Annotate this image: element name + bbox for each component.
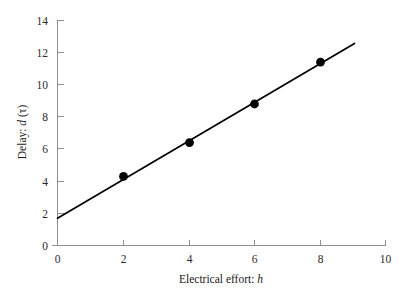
data-point: [316, 58, 325, 67]
y-tick-label: 8: [42, 111, 48, 123]
y-tick-label: 4: [42, 176, 48, 188]
y-tick-label: 0: [42, 240, 48, 252]
y-axis-tick-labels: 14 12 10 8 6 4 2 0: [37, 15, 49, 252]
x-tick-label: 2: [121, 253, 127, 265]
y-axis-title-text: Delay:: [16, 129, 29, 160]
data-point: [119, 172, 128, 181]
x-tick-label: 0: [55, 253, 61, 265]
y-tick-label: 10: [37, 79, 49, 91]
x-tick-label: 8: [318, 253, 324, 265]
x-tick-label: 10: [380, 253, 392, 265]
y-tick-label: 2: [42, 208, 48, 220]
x-tick-label: 4: [187, 253, 193, 265]
x-axis-tick-labels: 0 2 4 6 8 10: [55, 253, 392, 265]
scatter-plot-canvas: 14 12 10 8 6 4 2 0 0 2 4 6 8 10: [0, 0, 408, 295]
y-tick-label: 14: [37, 15, 49, 27]
y-axis-title-unit: (τ): [16, 105, 29, 117]
x-axis-title-text: Electrical effort:: [179, 273, 254, 285]
x-axis-title-variable: h: [257, 273, 263, 285]
y-tick-label: 12: [37, 47, 49, 59]
data-point: [185, 138, 194, 147]
x-axis-ticks: [58, 240, 386, 246]
y-tick-label: 6: [42, 143, 48, 155]
y-axis-title: Delay: d (τ): [16, 105, 29, 160]
linear-fit-line: [58, 43, 355, 218]
chart-figure: 14 12 10 8 6 4 2 0 0 2 4 6 8 10: [0, 0, 408, 295]
data-points: [119, 58, 325, 181]
x-tick-label: 6: [252, 253, 258, 265]
data-point: [250, 100, 259, 109]
x-axis-title: Electrical effort: h: [179, 273, 263, 285]
